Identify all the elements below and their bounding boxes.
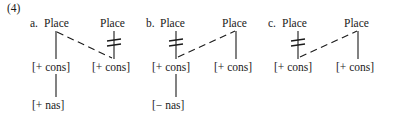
association-lines [0,0,394,120]
figure-container: (4) a. Place Place [+ cons] [+ cons] [+ … [0,0,394,120]
item-c-spreading-line [300,31,357,57]
item-a-spreading-line [57,32,112,58]
item-b-spreading-line [178,31,235,57]
